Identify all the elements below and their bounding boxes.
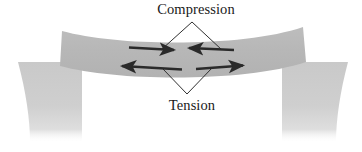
tension-label: Tension: [169, 97, 216, 113]
beam-body: [60, 27, 306, 78]
right-support: [282, 62, 348, 142]
beam-bending-diagram: Compression Tension: [0, 0, 362, 152]
left-support: [18, 62, 82, 142]
diagram-canvas: Compression Tension: [0, 0, 362, 152]
compression-label: Compression: [157, 1, 235, 17]
sagging-beam: [60, 27, 306, 78]
